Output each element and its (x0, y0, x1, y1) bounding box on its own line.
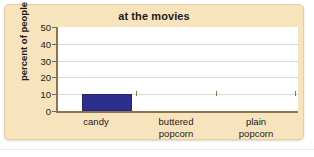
bar-candy (82, 94, 132, 111)
x-tick-mark-1 (136, 91, 137, 96)
x-label-candy-line-1: candy (56, 116, 136, 128)
chart-screenshot: at the movies percent of people 0 10 20 … (0, 0, 314, 157)
y-axis-tick-labels: 0 10 20 30 40 50 (29, 27, 51, 111)
gridline-20 (58, 77, 298, 78)
plot-surface (58, 27, 298, 111)
x-label-buttered-popcorn: buttered popcorn (136, 116, 216, 139)
chart-panel-inner: at the movies percent of people 0 10 20 … (5, 5, 303, 139)
chart-panel: at the movies percent of people 0 10 20 … (4, 4, 304, 140)
x-label-buttered-popcorn-line-1: buttered (136, 116, 216, 128)
gridline-40 (58, 44, 298, 45)
y-tick-label-50: 50 (29, 23, 51, 32)
gridline-30 (58, 61, 298, 62)
x-tick-mark-0 (56, 91, 57, 96)
plot-area (56, 27, 298, 113)
y-tick-label-30: 30 (29, 57, 51, 66)
y-tick-label-10: 10 (29, 90, 51, 99)
x-label-buttered-popcorn-line-2: popcorn (136, 128, 216, 140)
y-tick-label-20: 20 (29, 73, 51, 82)
bottom-divider (0, 149, 314, 150)
x-axis-category-labels: candy buttered popcorn plain popcorn (56, 116, 298, 142)
y-tick-label-40: 40 (29, 40, 51, 49)
x-label-plain-popcorn: plain popcorn (216, 116, 296, 139)
x-label-plain-popcorn-line-1: plain (216, 116, 296, 128)
x-tick-mark-3 (295, 91, 296, 96)
y-tick-label-0: 0 (29, 107, 51, 116)
y-axis-title: percent of people (17, 2, 30, 82)
x-label-plain-popcorn-line-2: popcorn (216, 128, 296, 140)
x-label-candy: candy (56, 116, 136, 128)
x-tick-mark-2 (216, 91, 217, 96)
